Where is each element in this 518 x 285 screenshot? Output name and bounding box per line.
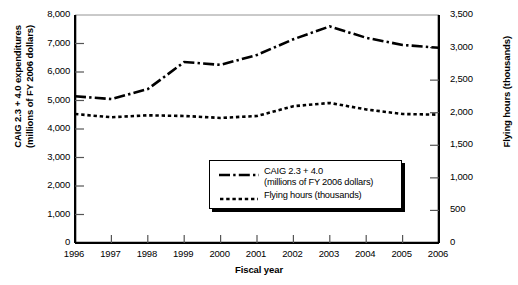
y-axis-left-tick-label: 4,000	[28, 123, 70, 133]
x-axis-tick-label: 2002	[272, 248, 312, 259]
y-axis-right-tick-label: 1,000	[450, 172, 492, 182]
chart-figure: CAIG 2.3 + 4.0 expenditures (millions of…	[0, 0, 518, 285]
y-axis-left-tick-label: 8,000	[28, 9, 70, 19]
y-axis-left-tick-label: 1,000	[28, 209, 70, 219]
dash-dot-line-icon	[219, 167, 259, 179]
y-axis-left-title-line2: (millions of FY 2006 dollars)	[23, 12, 35, 162]
y-axis-right-title: Flying hours (thousands)	[501, 17, 513, 167]
y-axis-right-tick-label: 0	[450, 237, 492, 247]
x-axis-tick-label: 1999	[163, 248, 203, 259]
y-axis-right-tick-label: 3,500	[450, 9, 492, 19]
x-axis-tick-label: 1996	[54, 248, 94, 259]
series-line-flying-hours	[75, 103, 439, 118]
y-axis-left-title-line1: CAIG 2.3 + 4.0 expenditures	[12, 12, 24, 162]
y-axis-right-tick-label: 2,000	[450, 107, 492, 117]
x-axis-title: Fiscal year	[0, 264, 518, 275]
x-axis-tick-label: 1997	[90, 248, 130, 259]
y-axis-left-title: CAIG 2.3 + 4.0 expenditures (millions of…	[12, 12, 35, 162]
legend-label-caig: CAIG 2.3 + 4.0 (millions of FY 2006 doll…	[264, 166, 373, 188]
series-line-caig	[75, 26, 439, 99]
legend-label-caig-line1: CAIG 2.3 + 4.0	[264, 166, 373, 177]
y-axis-left-tick-label: 5,000	[28, 95, 70, 105]
x-axis-tick-label: 2005	[382, 248, 422, 259]
x-axis-tick-label: 2000	[200, 248, 240, 259]
y-axis-right-tick-label: 2,500	[450, 74, 492, 84]
x-axis-tick-label: 2001	[236, 248, 276, 259]
y-axis-right-tick-label: 3,000	[450, 42, 492, 52]
dotted-line-icon	[219, 191, 259, 203]
y-axis-right-tick-label: 1,500	[450, 139, 492, 149]
x-axis-tick-label: 2006	[418, 248, 458, 259]
y-axis-right-tick-label: 500	[450, 204, 492, 214]
y-axis-left-tick-label: 7,000	[28, 38, 70, 48]
x-axis-tick-label: 1998	[127, 248, 167, 259]
chart-canvas	[74, 14, 440, 244]
y-axis-left-tick-label: 2,000	[28, 180, 70, 190]
legend-item-caig: CAIG 2.3 + 4.0 (millions of FY 2006 doll…	[219, 166, 373, 188]
legend-item-flying-hours: Flying hours (thousands)	[219, 190, 362, 203]
x-axis-tick-label: 2004	[345, 248, 385, 259]
legend-label-caig-line2: (millions of FY 2006 dollars)	[264, 177, 373, 188]
y-axis-left-tick-label: 3,000	[28, 152, 70, 162]
y-axis-left-tick-label: 6,000	[28, 66, 70, 76]
x-axis-tick-label: 2003	[309, 248, 349, 259]
y-axis-left-tick-label: 0	[28, 237, 70, 247]
chart-legend: CAIG 2.3 + 4.0 (millions of FY 2006 doll…	[209, 160, 402, 209]
legend-label-flying-hours: Flying hours (thousands)	[264, 190, 362, 201]
